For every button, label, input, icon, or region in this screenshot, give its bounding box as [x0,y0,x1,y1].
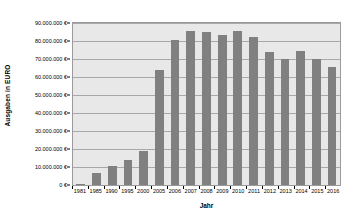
y-axis-tick-mark [67,41,70,42]
x-axis-tick-label: 1990 [104,188,120,200]
bar[interactable] [202,32,211,185]
y-axis-tick-mark [67,167,70,168]
y-axis-title-label: Ausgaben in EURO [4,64,11,126]
y-axis-tick-mark [67,23,70,24]
bar-slot [167,23,183,185]
bar-slot [199,23,215,185]
bar-slot [324,23,340,185]
x-axis-tick-label: 1995 [119,188,135,200]
x-axis-tick-label: 2009 [214,188,230,200]
y-axis-tick-label: 40.000.000 € [35,110,67,116]
bar-slot [214,23,230,185]
y-axis-tick-label: 0 € [59,182,67,188]
bar[interactable] [92,173,101,185]
x-axis-tick-label: 1985 [88,188,104,200]
bar[interactable] [76,184,85,185]
y-axis-tick-label: 20.000.000 € [35,146,67,152]
bar[interactable] [108,166,117,185]
bar-slot [277,23,293,185]
x-axis-tick-label: 2016 [325,188,341,200]
y-axis-tick-mark [67,77,70,78]
bar[interactable] [281,59,290,185]
bar[interactable] [249,37,258,185]
x-axis-tick-label: 2011 [246,188,262,200]
y-axis-tick-mark [67,131,70,132]
bar[interactable] [186,31,195,185]
bar[interactable] [218,35,227,185]
bar[interactable] [265,52,274,185]
y-axis-tick-labels: 0 €10.000.000 €20.000.000 €30.000.000 €4… [14,22,70,186]
y-axis-tick-mark [67,185,70,186]
bar-slot [89,23,105,185]
bar-slot [246,23,262,185]
bar-slot [309,23,325,185]
y-axis-tick-mark [67,113,70,114]
plot-area [72,22,341,186]
bar[interactable] [155,70,164,185]
bar-slot [261,23,277,185]
y-axis-tick-label: 30.000.000 € [35,128,67,134]
bar-slot [152,23,168,185]
bar[interactable] [296,51,305,185]
x-axis-tick-label: 2015 [309,188,325,200]
y-axis-tick-label: 10.000.000 € [35,164,67,170]
x-axis-tick-label: 2005 [151,188,167,200]
bar-slot [230,23,246,185]
y-axis-tick-mark [67,59,70,60]
bar-slot [136,23,152,185]
x-axis-tick-label: 2006 [167,188,183,200]
x-axis-tick-labels: 1981198519901995200020052006200720082009… [72,188,341,200]
y-axis-tick-label: 60.000.000 € [35,74,67,80]
bar-slot [120,23,136,185]
bar-chart: Ausgaben in EURO 0 €10.000.000 €20.000.0… [0,0,351,223]
x-axis-tick-label: 2008 [199,188,215,200]
x-axis-tick-label: 2007 [183,188,199,200]
bars-container [73,23,340,185]
x-axis-tick-label: 2000 [135,188,151,200]
bar-slot [293,23,309,185]
x-axis-tick-label: 1981 [72,188,88,200]
y-axis-tick-label: 70.000.000 € [35,56,67,62]
y-axis-title: Ausgaben in EURO [0,0,14,190]
bar-slot [73,23,89,185]
bar[interactable] [312,59,321,185]
bar[interactable] [124,160,133,185]
bar-slot [104,23,120,185]
y-axis-tick-label: 90.000.000 € [35,20,67,26]
x-axis-tick-label: 2013 [278,188,294,200]
y-axis-tick-mark [67,149,70,150]
bar[interactable] [171,40,180,185]
bar-slot [183,23,199,185]
bar[interactable] [233,31,242,185]
x-axis-tick-label: 2014 [294,188,310,200]
x-axis-tick-label: 2010 [230,188,246,200]
bar[interactable] [328,67,337,185]
y-axis-tick-label: 80.000.000 € [35,38,67,44]
x-axis-tick-label: 2012 [262,188,278,200]
bar[interactable] [139,151,148,185]
x-axis-title: Jahr [72,202,341,209]
y-axis-tick-mark [67,95,70,96]
y-axis-tick-label: 50.000.000 € [35,92,67,98]
